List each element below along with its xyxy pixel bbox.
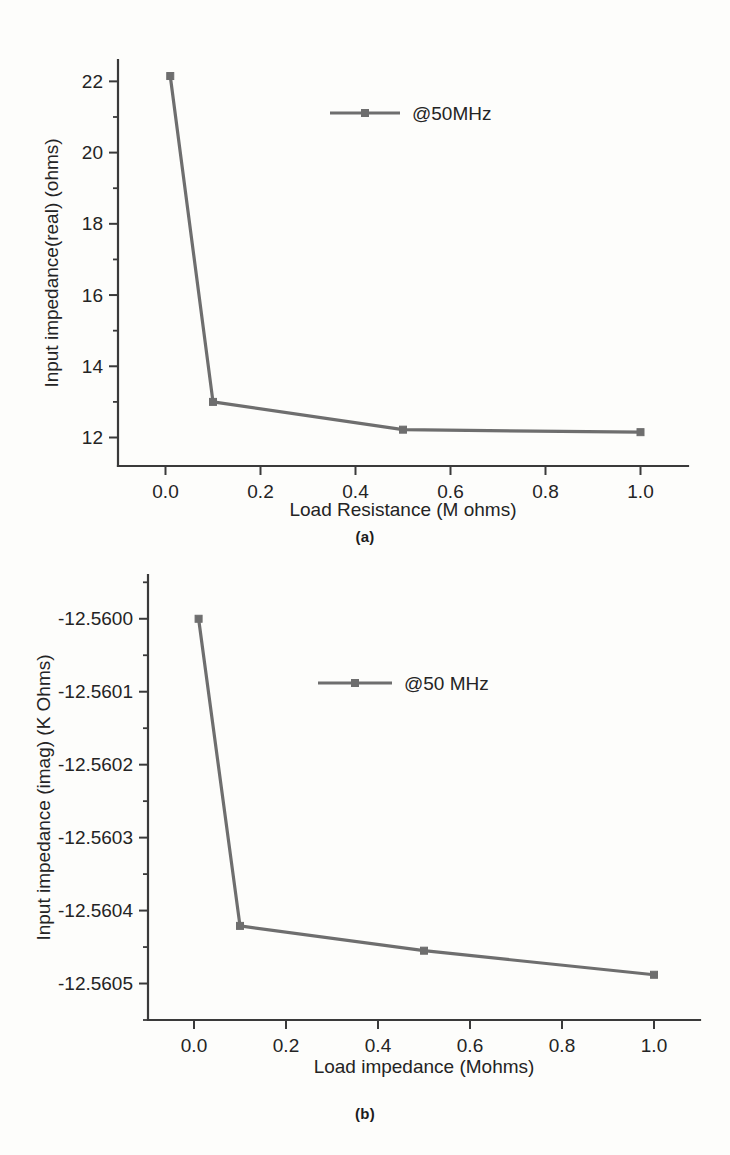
x-tick-label: 0.2 bbox=[273, 1035, 299, 1056]
x-tick-label: 0.4 bbox=[365, 1035, 392, 1056]
data-point-marker bbox=[195, 615, 202, 622]
y-tick-label: -12.5605 bbox=[58, 973, 133, 994]
data-point-marker bbox=[210, 398, 217, 405]
bottom-cropped-caption bbox=[0, 1141, 730, 1155]
x-axis-title: Load impedance (Mohms) bbox=[314, 1056, 535, 1077]
y-tick-label: 12 bbox=[82, 427, 103, 448]
legend: @50MHz bbox=[330, 103, 491, 124]
x-tick-label: 0.8 bbox=[549, 1035, 575, 1056]
series-line bbox=[170, 76, 640, 432]
y-tick-label: 18 bbox=[82, 213, 103, 234]
y-axis-title: Input impedance(real) (ohms) bbox=[41, 138, 62, 387]
chart-a-svg: 1214161820220.00.20.40.60.81.0Load Resis… bbox=[0, 0, 730, 575]
y-tick-group: 121416182022 bbox=[82, 71, 118, 448]
legend-marker-swatch bbox=[352, 680, 359, 687]
data-point-marker bbox=[637, 429, 644, 436]
data-point-marker bbox=[400, 426, 407, 433]
legend-label: @50 MHz bbox=[404, 673, 489, 694]
chart-panel-a: 1214161820220.00.20.40.60.81.0Load Resis… bbox=[0, 0, 730, 575]
x-tick-label: 0.0 bbox=[181, 1035, 207, 1056]
x-tick-group: 0.00.20.40.60.81.0 bbox=[152, 466, 653, 502]
legend-marker-swatch bbox=[362, 110, 369, 117]
chart-panel-b: -12.5605-12.5604-12.5603-12.5602-12.5601… bbox=[0, 548, 730, 1138]
y-tick-label: 14 bbox=[82, 356, 104, 377]
y-tick-label: 16 bbox=[82, 285, 103, 306]
data-series bbox=[195, 615, 657, 978]
y-tick-label: -12.5601 bbox=[58, 681, 133, 702]
caption-a: (a) bbox=[0, 528, 730, 545]
y-tick-label: -12.5600 bbox=[58, 608, 133, 629]
x-tick-label: 0.6 bbox=[457, 1035, 483, 1056]
y-tick-label: -12.5603 bbox=[58, 827, 133, 848]
chart-b-svg: -12.5605-12.5604-12.5603-12.5602-12.5601… bbox=[0, 548, 730, 1138]
x-tick-label: 1.0 bbox=[627, 481, 653, 502]
legend: @50 MHz bbox=[318, 673, 489, 694]
data-point-marker bbox=[421, 947, 428, 954]
x-tick-label: 0.0 bbox=[152, 481, 178, 502]
y-axis-title: Input impedance (imag) (K Ohms) bbox=[33, 654, 54, 940]
caption-b: (b) bbox=[0, 1105, 730, 1122]
figure-container: 1214161820220.00.20.40.60.81.0Load Resis… bbox=[0, 0, 730, 1155]
y-tick-label: 20 bbox=[82, 142, 103, 163]
y-tick-label: -12.5602 bbox=[58, 754, 133, 775]
x-tick-label: 0.8 bbox=[532, 481, 558, 502]
axis-group bbox=[118, 60, 688, 466]
y-tick-label: -12.5604 bbox=[58, 900, 133, 921]
data-series bbox=[167, 73, 644, 436]
x-tick-label: 0.2 bbox=[247, 481, 273, 502]
data-point-marker bbox=[237, 922, 244, 929]
y-tick-group: -12.5605-12.5604-12.5603-12.5602-12.5601… bbox=[58, 582, 148, 1020]
x-tick-label: 1.0 bbox=[641, 1035, 667, 1056]
x-axis-title: Load Resistance (M ohms) bbox=[289, 499, 516, 520]
legend-label: @50MHz bbox=[412, 103, 491, 124]
data-point-marker bbox=[167, 73, 174, 80]
x-tick-group: 0.00.20.40.60.81.0 bbox=[181, 1020, 667, 1056]
data-point-marker bbox=[651, 971, 658, 978]
y-tick-label: 22 bbox=[82, 71, 103, 92]
